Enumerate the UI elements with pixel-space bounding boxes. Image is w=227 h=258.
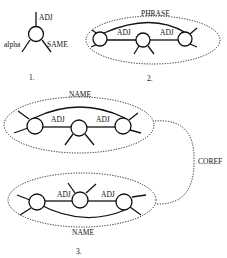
- diagram-number: 2.: [147, 74, 153, 83]
- diagram-3-bottom: ADJ ADJ NAME 3.: [8, 173, 156, 256]
- stub: [18, 111, 29, 119]
- stub: [86, 184, 96, 193]
- node: [93, 32, 107, 46]
- node: [29, 27, 44, 42]
- name-arc: [34, 107, 125, 118]
- node: [116, 194, 132, 210]
- stub: [17, 195, 30, 200]
- label-adj: ADJ: [160, 28, 174, 37]
- coref-connector: [155, 121, 194, 204]
- label-adj: ADJ: [117, 28, 131, 37]
- label-coref: COREF: [198, 157, 222, 166]
- stub: [132, 195, 146, 197]
- node: [115, 118, 131, 134]
- node: [136, 33, 150, 47]
- diagram-2: PHRASE ADJ ADJ 2.: [86, 9, 220, 83]
- diagram-svg: ADJ alpha SAME 1. PHRASE ADJ ADJ 2.: [0, 0, 227, 258]
- label-same: SAME: [47, 40, 68, 49]
- label-adj: ADJ: [51, 115, 65, 124]
- label-alpha: alpha: [4, 40, 21, 49]
- label-phrase: PHRASE: [141, 9, 170, 18]
- label-adj: ADJ: [101, 190, 115, 199]
- stub: [190, 44, 197, 47]
- diagram-number: 1.: [29, 73, 35, 82]
- stub: [148, 46, 154, 54]
- node: [72, 192, 88, 208]
- diagram-number: 3.: [76, 247, 82, 256]
- node: [29, 194, 45, 210]
- stub: [85, 134, 94, 145]
- stub: [129, 113, 138, 120]
- label-name: NAME: [72, 228, 95, 237]
- label-adj: ADJ: [57, 190, 71, 199]
- stub: [14, 128, 28, 133]
- label-adj: ADJ: [96, 115, 110, 124]
- coref-link: COREF: [155, 121, 222, 204]
- stub: [20, 208, 31, 215]
- diagram-canvas: ADJ alpha SAME 1. PHRASE ADJ ADJ 2.: [0, 0, 227, 258]
- stub: [134, 46, 139, 54]
- edge-left: [22, 40, 30, 52]
- stub: [130, 207, 141, 215]
- stub: [130, 130, 141, 133]
- node: [178, 32, 192, 46]
- stub: [190, 28, 197, 34]
- node: [27, 118, 43, 134]
- node: [71, 120, 87, 136]
- label-adj: ADJ: [39, 13, 53, 22]
- diagram-3-top: NAME ADJ ADJ: [4, 90, 154, 153]
- label-name: NAME: [69, 90, 92, 99]
- diagram-1: ADJ alpha SAME 1.: [4, 12, 68, 82]
- stub: [65, 134, 73, 145]
